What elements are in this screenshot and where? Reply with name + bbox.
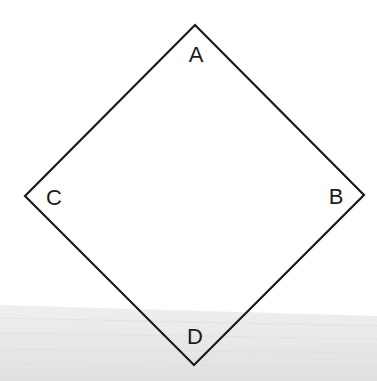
diagram-canvas: A B C D [0,0,377,381]
vertex-label-d: D [183,326,207,348]
vertex-label-c: C [42,187,66,209]
vertex-label-b: B [324,186,348,208]
vertex-label-a: A [184,44,208,66]
